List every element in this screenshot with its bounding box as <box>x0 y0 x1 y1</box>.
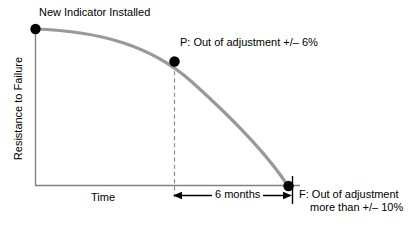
p-point-label: P: Out of adjustment +/– 6% <box>180 36 318 49</box>
marker-new-indicator <box>30 24 40 34</box>
x-axis-label: Time <box>91 191 115 204</box>
degradation-curve <box>35 29 288 186</box>
marker-p-point <box>169 56 179 66</box>
duration-label: 6 months <box>212 188 263 201</box>
pf-curve-chart: New Indicator Installed P: Out of adjust… <box>0 0 412 226</box>
f-point-label-line2: more than +/– 10% <box>299 201 411 214</box>
f-point-label-line1: F: Out of adjustment <box>299 188 399 200</box>
marker-f-point <box>283 181 293 191</box>
new-indicator-label: New Indicator Installed <box>39 6 150 19</box>
f-point-label: F: Out of adjustmentmore than +/– 10% <box>299 188 411 214</box>
y-axis-label: Resistance to Failure <box>12 54 25 164</box>
